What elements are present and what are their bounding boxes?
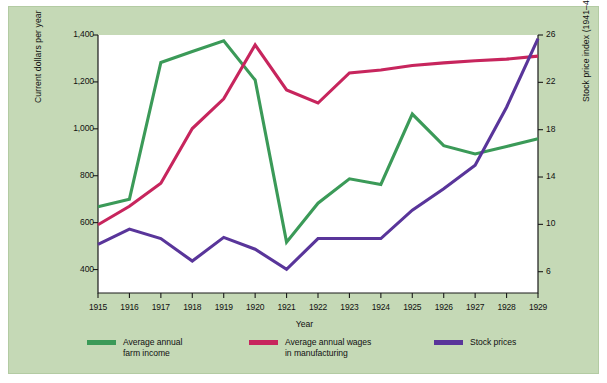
y2-axis-tick-label: 22 <box>546 76 555 86</box>
x-axis-tick-label: 1923 <box>333 302 365 312</box>
x-axis-tick-label: 1929 <box>522 302 554 312</box>
legend-item-2[interactable]: Average annual wages in manufacturing <box>249 337 371 358</box>
legend-swatch-icon <box>249 340 278 345</box>
y2-axis-title: Stock price index (1941–43 = 100) <box>581 0 591 102</box>
y-axis-tick-label: 1,000 <box>56 123 94 133</box>
x-axis-tick-label: 1924 <box>365 302 397 312</box>
x-axis-tick-label: 1922 <box>302 302 334 312</box>
x-axis-tick-label: 1928 <box>491 302 523 312</box>
legend-swatch-icon <box>434 340 463 345</box>
legend-swatch-icon <box>87 340 116 345</box>
y-axis-tick-label: 1,400 <box>56 29 94 39</box>
x-axis-tick-label: 1920 <box>239 302 271 312</box>
chart-canvas <box>98 35 538 293</box>
y2-axis-tick-label: 6 <box>546 266 551 276</box>
chart-legend: Average annual farm incomeAverage annual… <box>9 337 600 367</box>
x-axis-tick-label: 1917 <box>145 302 177 312</box>
y2-axis-tick-label: 10 <box>546 218 555 228</box>
x-axis-tick-label: 1919 <box>208 302 240 312</box>
x-axis-tick-label: 1927 <box>459 302 491 312</box>
x-axis-tick-label: 1916 <box>113 302 145 312</box>
figure-panel: Current dollars per year Stock price ind… <box>8 6 599 374</box>
legend-label: Average annual farm income <box>123 337 182 358</box>
legend-item-1[interactable]: Average annual farm income <box>87 337 182 358</box>
y-axis-tick-label: 1,200 <box>56 76 94 86</box>
y-axis-tick-label: 400 <box>56 264 94 274</box>
x-axis-tick-label: 1915 <box>82 302 114 312</box>
x-axis-tick-label: 1921 <box>271 302 303 312</box>
legend-label: Average annual wages in manufacturing <box>285 337 371 358</box>
x-axis-tick-label: 1926 <box>428 302 460 312</box>
series-line-1 <box>98 41 538 242</box>
series-line-2 <box>98 45 538 225</box>
x-axis-tick-label: 1918 <box>176 302 208 312</box>
y-axis-tick-label: 600 <box>56 217 94 227</box>
y-axis-tick-label: 800 <box>56 170 94 180</box>
legend-label: Stock prices <box>470 337 516 348</box>
y2-axis-tick-label: 14 <box>546 171 555 181</box>
chart-figure: Current dollars per year Stock price ind… <box>0 0 607 383</box>
plot-area <box>98 35 538 293</box>
legend-item-3[interactable]: Stock prices <box>434 337 516 348</box>
y-axis-title: Current dollars per year <box>33 10 43 103</box>
x-axis-title: Year <box>9 319 600 329</box>
y2-axis-tick-label: 26 <box>546 29 555 39</box>
x-axis-tick-label: 1925 <box>396 302 428 312</box>
axis-frame <box>98 35 538 293</box>
y2-axis-tick-label: 18 <box>546 124 555 134</box>
